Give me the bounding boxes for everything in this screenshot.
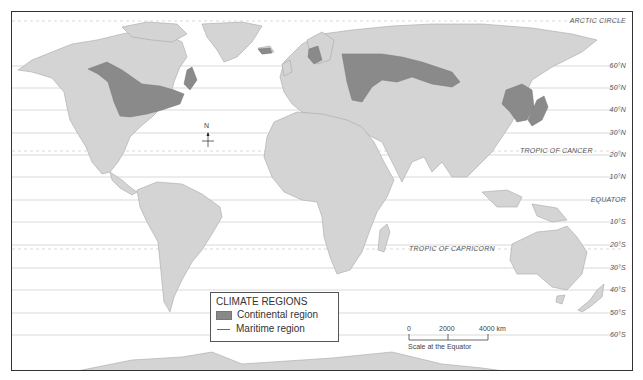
lat-label-30n: 30°N [610,129,626,136]
lat-label-20s: 20°S [610,241,626,248]
compass-rose: N [201,125,215,149]
scale-tick-4000: 4000 km [479,325,506,332]
scale-tick-0: 0 [407,325,411,332]
lat-label-equator: EQUATOR [591,196,626,203]
lat-label-40s: 40°S [610,286,626,293]
legend-item-maritime: Maritime region [216,322,333,336]
legend: CLIMATE REGIONS Continental region Marit… [210,292,339,342]
lat-label-arctic-circle: ARCTIC CIRCLE [570,17,626,24]
lat-label-40n: 40°N [610,106,626,113]
maritime-line-icon [217,329,230,330]
legend-item-continental: Continental region [216,308,333,322]
legend-label: Maritime region [236,322,305,336]
lat-label-50s: 50°S [610,309,626,316]
scale-bar: 0 2000 4000 km Scale at the Equator [397,322,497,352]
lat-label-60n: 60°N [610,62,626,69]
scale-caption: Scale at the Equator [408,343,471,350]
lat-label-20n: 20°N [610,151,626,158]
lat-label-10s: 10°S [610,218,626,225]
lat-label-tropic-of-cancer: TROPIC OF CANCER [520,147,593,154]
lat-label-50n: 50°N [610,84,626,91]
legend-label: Continental region [237,308,318,322]
lat-label-30s: 30°S [610,264,626,271]
legend-title: CLIMATE REGIONS [216,296,333,308]
lat-label-tropic-of-capricorn: TROPIC OF CAPRICORN [409,245,495,252]
lat-label-10n: 10°N [610,173,626,180]
lat-label-60s: 60°S [610,331,626,338]
north-arrow-icon [201,125,215,149]
continental-swatch-icon [216,311,232,320]
scale-tick-2000: 2000 [439,325,455,332]
